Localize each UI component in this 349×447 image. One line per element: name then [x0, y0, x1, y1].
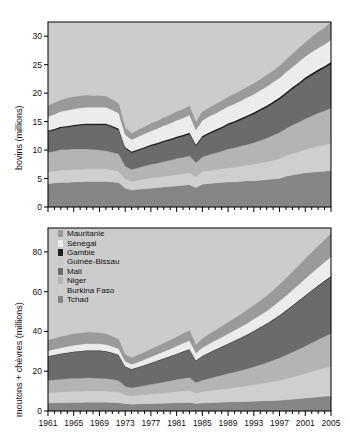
legend-swatch-icon	[58, 258, 63, 265]
legend-label: Niger	[67, 276, 86, 285]
legend-item: Gambie	[58, 248, 119, 257]
y-tick-label: 80	[16, 248, 42, 256]
legend-item: Tchad	[58, 295, 119, 304]
legend-label: Sénégal	[67, 239, 96, 248]
y-tick-label: 0	[16, 407, 42, 415]
legend-label: Mauritanie	[67, 229, 104, 238]
legend-label: Guinée-Bissau	[67, 257, 119, 266]
legend-swatch-icon	[58, 296, 63, 303]
panel-bovins: bovins (millions) 051015202530	[0, 0, 349, 225]
y-tick-label: 15	[16, 118, 42, 126]
legend-swatch-icon	[58, 249, 63, 256]
legend-label: Tchad	[67, 295, 88, 304]
plot-area-bovins	[0, 0, 349, 225]
legend-item: Sénégal	[58, 238, 119, 247]
figure-livestock-sahel: bovins (millions) 051015202530 moutons +…	[0, 0, 349, 447]
y-tick-label: 30	[16, 32, 42, 40]
y-tick-label: 25	[16, 61, 42, 69]
y-tick-label: 20	[16, 367, 42, 375]
legend-label: Gambie	[67, 248, 95, 257]
legend-swatch-icon	[58, 277, 63, 284]
y-tick-label: 40	[16, 327, 42, 335]
plot-area-moutons-chevres	[0, 225, 349, 447]
legend-item: Guinée-Bissau	[58, 257, 119, 266]
y-tick-label: 20	[16, 89, 42, 97]
y-tick-label: 60	[16, 288, 42, 296]
legend-item: Mauritanie	[58, 229, 119, 238]
y-axis-title-moutons-chevres: moutons + chèvres (millions)	[14, 302, 24, 417]
legend-swatch-icon	[58, 240, 63, 247]
panel-moutons-chevres: moutons + chèvres (millions) 020406080 1…	[0, 225, 349, 447]
x-tick-label: 2005	[316, 419, 346, 428]
legend-label: Burkina Faso	[67, 286, 114, 295]
legend-label: Mali	[67, 267, 82, 276]
legend: MauritanieSénégalGambieGuinée-BissauMali…	[58, 229, 119, 304]
y-tick-label: 5	[16, 175, 42, 183]
legend-swatch-icon	[58, 287, 63, 294]
y-axis-title-bovins: bovins (millions)	[14, 105, 24, 170]
legend-swatch-icon	[58, 230, 63, 237]
y-tick-label: 10	[16, 146, 42, 154]
legend-swatch-icon	[58, 268, 63, 275]
legend-item: Niger	[58, 276, 119, 285]
legend-item: Mali	[58, 267, 119, 276]
legend-item: Burkina Faso	[58, 285, 119, 294]
y-tick-label: 0	[16, 203, 42, 211]
